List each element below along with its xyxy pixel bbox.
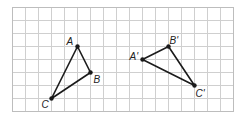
vertex-label: C — [42, 99, 50, 110]
vertex-label: A — [66, 36, 74, 47]
vertex-label: C' — [196, 88, 206, 99]
vertex-label: B — [94, 74, 101, 85]
vertex-label: B' — [170, 35, 180, 46]
vertex-point — [75, 44, 79, 48]
vertex-point — [140, 57, 144, 61]
vertex-point — [49, 96, 53, 100]
vertex-label: A' — [129, 51, 140, 62]
coordinate-grid-figure: ABCA'B'C' — [0, 0, 239, 118]
vertex-point — [88, 70, 92, 74]
